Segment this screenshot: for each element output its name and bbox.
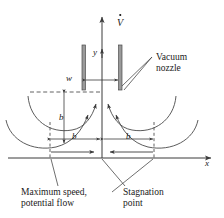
stagnation-point-annotation: Stagnation point: [123, 187, 164, 208]
stagnation-line-2: point: [123, 198, 164, 209]
b-vertical-label: b: [59, 112, 64, 122]
stagnation-line-1: Stagnation: [123, 187, 164, 198]
max-speed-line-1: Maximum speed,: [21, 187, 87, 198]
w-dimension-label: w: [66, 73, 72, 83]
vacuum-nozzle-flow-diagram: V y x w b b b Vacuum nozzle Maximum spee…: [0, 0, 224, 218]
leader-line-stagnation-a: [102, 159, 125, 186]
nozzle-plate-left: [82, 45, 85, 90]
b-left-label: b: [72, 131, 77, 141]
diagram-canvas: [0, 0, 224, 218]
vacuum-nozzle-line-2: nozzle: [156, 63, 187, 74]
x-axis-label: x: [205, 158, 209, 168]
nozzle-plate-right: [119, 45, 122, 90]
leader-line-max-speed: [51, 159, 58, 186]
vacuum-nozzle-line-1: Vacuum: [156, 52, 187, 63]
streamline-right-inner: [108, 96, 176, 131]
volumetric-flowrate-label: V: [117, 17, 123, 28]
leader-line-vacuum-nozzle-upper: [122, 57, 152, 86]
flowrate-dot-icon: [119, 14, 121, 16]
leader-line-vacuum-nozzle-lower: [124, 57, 152, 90]
y-axis-label: y: [93, 47, 97, 57]
max-speed-annotation: Maximum speed, potential flow: [21, 187, 87, 208]
flowrate-letter: V: [117, 17, 123, 28]
vacuum-nozzle-annotation: Vacuum nozzle: [156, 52, 187, 73]
b-right-label: b: [126, 131, 131, 141]
max-speed-line-2: potential flow: [21, 198, 87, 209]
